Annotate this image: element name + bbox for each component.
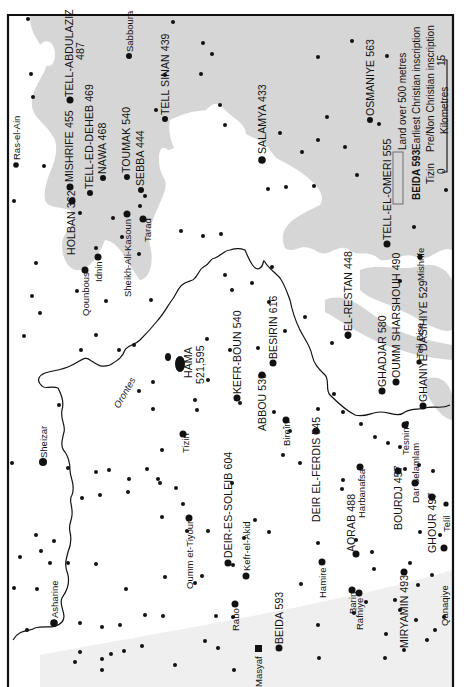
label-hama-dates: 521,595 [194,345,206,384]
label-kefr-boun: KEFR-BOUN 540 [231,310,243,394]
label-salamya: SALAMYA 433 [256,84,268,154]
label-birein: Bireîn [281,421,292,446]
label-abbou: ABBOU 539 [256,373,268,431]
label-asharine: Asharine [49,581,60,619]
label-miryamin: MIRYAMIN 493 [398,575,410,648]
label-tell-sinan: TELL SINAN 439 [159,33,171,115]
label-oumm-sharshouh: OUMM SHARSHOUH 490 [390,252,402,378]
label-kefr-el-akid: Kefr-el-Akid [241,521,252,571]
label-mishrife-455: MISHRIFE 455 [63,110,75,182]
label-hamire: Hamire [317,567,328,598]
label-ras-el-ain: Ras-el-Ain [11,116,22,160]
label-hama: HAMA [182,347,194,378]
label-sabboura: Sabboura [124,10,135,52]
label-sheikh-ali-kasoun: Sheikh-Ali-Kasoun [122,219,133,297]
label-rabo: Rabo [230,608,241,631]
scale-unit: Kilometres [439,87,450,134]
legend-christian-example: BEIDA 593 [411,149,422,200]
label-ghaniye-dasihiye: GHANIYE DASIHIYE 529 [417,280,429,402]
label-tell-abdulaziz-date: 487 [74,42,86,60]
label-telil: Telil [441,516,452,532]
label-oumm-et-tiyour: Oumm et-Tiyour [184,521,195,589]
label-dar-selamlam: Dar Selamlam [410,443,421,503]
label-beida: BEIDA 593 [273,592,285,644]
label-ghour: GHOUR 497 [426,493,438,553]
label-tell-ed-deheb: TELL-ED-DEHEB 469 [83,84,95,189]
legend-upland-swatch [393,152,403,204]
label-osmaniye: OSMANIYE 563 [364,39,376,116]
scale-max: 15 [436,54,447,66]
label-tizin: Tizin [180,433,191,453]
label-sebba: SEBBA 444 [134,130,146,186]
label-mishrife: Mishrife [415,248,426,281]
scale-min: 0 [436,168,447,174]
orontes-river [13,249,450,641]
legend-pagan-example: Tizin [425,163,436,184]
label-ghadjar: GHADJAR 580 [376,315,388,387]
label-nawa: NAWA 468 [96,123,108,174]
label-bourdj: BOURDJ 457 [392,465,404,530]
label-toumak: TOUMAK 540 [120,107,132,173]
label-masyaf: Masyaf [253,656,264,687]
legend-pagan-label: Pre/Non Christian inscription [425,25,436,152]
label-qounbous: Qounbous [80,272,91,316]
label-besirin: BESIRIN 616 [267,295,279,359]
label-idnin: Idnin [93,261,104,282]
label-rafniye: Rafniye [354,598,365,630]
label-deir-el-ferdis: DEIR EL-FERDIS 545 [310,417,322,522]
label-orontes: Orontes [111,375,138,410]
label-tell-el-omeri: TELL-EL-OMERI 555 [381,138,393,240]
label-deir-es-soleib: DEIR-ES-SOLEIB 604 [222,452,234,558]
label-el-restan: EL-RESTAN 448 [342,251,354,331]
label-holban: HOLBAN 362 [65,190,77,255]
masyaf-marker [255,645,262,652]
inscription-map: TELL-ABDULAZIZ 487 Ras-el-Ain Sabboura M… [0,0,465,687]
legend-christian-label: Earliest Christian inscription [411,27,422,150]
label-tarad: Tarad [142,218,153,242]
label-sheizar: Sheizar [38,426,49,458]
legend-upland-label: Land over 500 metres [397,53,408,150]
label-harbanafsa: Harbanafsa [356,468,367,518]
label-aqrab: AQRAB 488 [345,494,357,552]
label-qanaqiye: Qanaqiye [439,585,450,626]
